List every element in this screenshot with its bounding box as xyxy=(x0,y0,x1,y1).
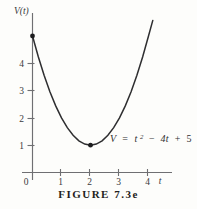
point-y-intercept xyxy=(30,34,35,39)
y-tick-label-1: 1 xyxy=(19,141,24,151)
equation-annotation: V = t 2 − 4t + 5 xyxy=(110,130,192,144)
y-tick-label-2: 2 xyxy=(19,114,24,124)
x-tick-label-3: 3 xyxy=(116,177,121,187)
point-vertex-minimum xyxy=(88,143,93,148)
equation-variable: t xyxy=(134,133,137,144)
figure-caption: FIGURE 7.3e xyxy=(0,188,197,200)
parabola-plot: 4 3 2 1 0 1 2 3 4 V(t) t V = t 2 − 4t + … xyxy=(0,0,197,209)
x-tick-label-2: 2 xyxy=(87,177,92,187)
y-axis-label: V(t) xyxy=(14,6,29,17)
equation-exponent: 2 xyxy=(140,133,144,140)
equation-equals: = xyxy=(122,133,128,144)
equation-minus: − xyxy=(149,133,155,144)
y-tick-label-3: 3 xyxy=(19,86,24,96)
equation-term2: 4t xyxy=(160,133,168,144)
y-tick-label-4: 4 xyxy=(19,59,24,69)
x-tick-label-4: 4 xyxy=(145,177,150,187)
equation-lhs: V xyxy=(110,133,118,144)
x-axis-label: t xyxy=(159,176,162,186)
figure-container: 4 3 2 1 0 1 2 3 4 V(t) t V = t 2 − 4t + … xyxy=(0,0,197,209)
x-tick-label-1: 1 xyxy=(58,177,63,187)
origin-label: 0 xyxy=(24,177,29,187)
parabola-curve xyxy=(33,20,153,145)
equation-plus: + xyxy=(175,133,181,144)
equation-constant: 5 xyxy=(186,133,191,144)
